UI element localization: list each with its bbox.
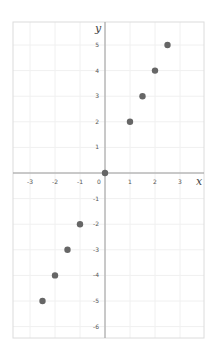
y-tick-label: -2 <box>93 220 99 227</box>
data-point <box>102 170 108 176</box>
y-tick-label: 4 <box>95 67 99 74</box>
data-point <box>52 272 58 278</box>
y-tick-label: 3 <box>95 92 99 99</box>
x-tick-label: 0 <box>97 178 101 185</box>
y-tick-label: -3 <box>93 246 99 253</box>
y-tick-label: -1 <box>93 195 99 202</box>
x-tick-label: -1 <box>77 178 83 185</box>
x-tick-label: -2 <box>52 178 58 185</box>
data-point <box>152 67 158 73</box>
y-tick-label: 2 <box>95 118 99 125</box>
x-tick-label: -3 <box>27 178 33 185</box>
data-point <box>77 221 83 227</box>
x-axis-label: x <box>196 175 203 188</box>
y-tick-label: -4 <box>93 271 99 278</box>
y-tick-label: -5 <box>93 297 99 304</box>
data-point <box>164 42 170 48</box>
y-tick-label: 5 <box>95 41 99 48</box>
x-tick-label: 1 <box>128 178 132 185</box>
plot-frame <box>13 22 204 338</box>
scatter-chart: -3-2-10123-6-5-4-3-2-112345 x y <box>0 0 219 359</box>
y-axis-label: y <box>94 22 102 35</box>
data-point <box>39 298 45 304</box>
y-tick-label: -6 <box>93 323 99 330</box>
x-tick-label: 2 <box>153 178 157 185</box>
chart-canvas: -3-2-10123-6-5-4-3-2-112345 x y <box>0 0 219 359</box>
grid-lines <box>13 22 204 338</box>
data-point <box>139 93 145 99</box>
axes <box>13 22 204 338</box>
y-tick-label: 1 <box>95 143 99 150</box>
data-point <box>127 119 133 125</box>
x-tick-label: 3 <box>178 178 182 185</box>
data-point <box>64 247 70 253</box>
